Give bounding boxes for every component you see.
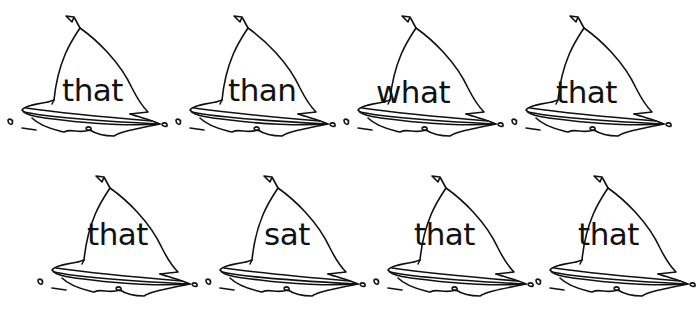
sight-word: that [62, 72, 123, 108]
sailboat-card-2: than [170, 0, 340, 150]
sailboat-card-1: that [2, 0, 172, 150]
sight-word: that [578, 216, 639, 252]
sight-word: that [556, 74, 617, 110]
sight-word: than [228, 72, 296, 108]
sight-word: what [376, 74, 450, 110]
sailboat-card-4: that [506, 0, 676, 150]
sight-word: that [414, 216, 475, 252]
sailboat-card-8: that [530, 160, 699, 310]
sight-word: sat [264, 216, 310, 252]
sailboat-card-7: that [368, 160, 538, 310]
sailboat-card-3: what [338, 0, 508, 150]
sailboat-card-5: that [32, 160, 202, 310]
sailboat-card-6: sat [200, 160, 370, 310]
sight-word: that [87, 216, 148, 252]
